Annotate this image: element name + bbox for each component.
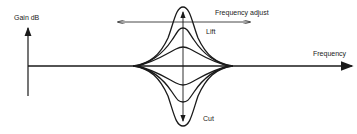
y-axis-label: Gain dB: [14, 14, 39, 21]
cut-label: Cut: [203, 115, 214, 122]
x-axis-label: Frequency: [313, 50, 346, 57]
diagram-canvas: [0, 0, 357, 134]
frequency-adjust-label: Frequency adjust: [215, 9, 269, 16]
lift-label: Lift: [206, 28, 215, 35]
